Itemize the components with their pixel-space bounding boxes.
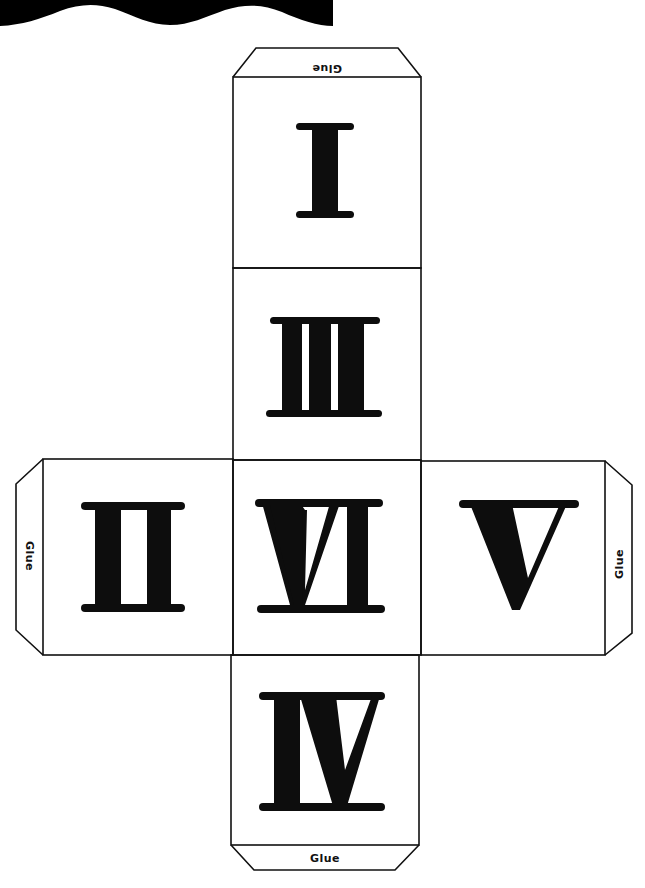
numeral-III xyxy=(266,317,382,417)
cube-net: Glue Glue Glue Glue xyxy=(0,0,645,888)
numeral-IV xyxy=(259,692,385,811)
glue-tab-top: Glue xyxy=(233,48,421,77)
face-center xyxy=(233,460,421,655)
glue-tab-right: Glue xyxy=(605,461,632,655)
glue-label-bottom: Glue xyxy=(310,852,340,865)
numeral-VI xyxy=(255,499,385,613)
glue-tab-left: Glue xyxy=(16,459,43,655)
wavy-band xyxy=(0,0,333,26)
numeral-V xyxy=(459,500,579,610)
glue-label-left: Glue xyxy=(23,541,36,571)
glue-tab-bottom: Glue xyxy=(231,845,419,870)
numeral-II xyxy=(81,502,185,612)
glue-label-right: Glue xyxy=(613,549,626,579)
face-left xyxy=(43,459,233,655)
numeral-I xyxy=(296,123,354,218)
glue-label-top: Glue xyxy=(312,62,342,75)
